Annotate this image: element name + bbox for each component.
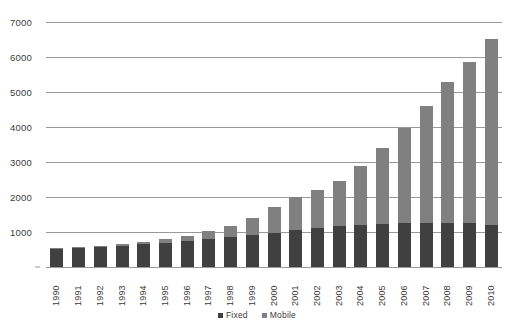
chart-legend: FixedMobile [0,310,514,320]
x-tick-label: 1993 [118,270,127,306]
bar-segment-mobile[interactable] [289,197,302,231]
bar-stack-1993[interactable] [116,244,129,267]
bar-segment-fixed[interactable] [268,233,281,267]
x-tick-slot: 1996 [176,270,198,306]
bar-segment-fixed[interactable] [246,235,259,267]
x-tick-slot: 1990 [46,270,68,306]
bar-stack-2005[interactable] [376,148,389,267]
bar-segment-mobile[interactable] [463,62,476,224]
bar-slot [133,22,155,267]
bar-stack-1999[interactable] [246,218,259,267]
x-tick-label: 2008 [443,270,452,306]
bar-segment-fixed[interactable] [116,246,129,267]
bar-stack-1991[interactable] [72,247,85,267]
x-tick-label: 1990 [52,270,61,306]
x-tick-slot: 2008 [437,270,459,306]
y-axis: 1000200030004000500060007000 [0,22,42,267]
plot-area [46,22,502,267]
x-tick-label: 1991 [74,270,83,306]
bar-stack-1996[interactable] [181,236,194,267]
y-tick-label: 4000 [10,122,32,133]
bar-segment-mobile[interactable] [398,128,411,223]
legend-swatch-icon [262,313,267,318]
bar-segment-mobile[interactable] [485,39,498,225]
bar-segment-mobile[interactable] [224,226,237,237]
x-tick-slot: 2006 [394,270,416,306]
bar-stack-1990[interactable] [50,248,63,267]
bar-segment-mobile[interactable] [268,207,281,233]
bar-segment-fixed[interactable] [72,248,85,267]
bar-segment-fixed[interactable] [311,228,324,267]
bar-segment-fixed[interactable] [159,243,172,268]
bar-segment-fixed[interactable] [485,225,498,267]
bar-segment-fixed[interactable] [289,230,302,267]
legend-entry-fixed[interactable]: Fixed [218,310,248,320]
x-tick-slot: 2000 [263,270,285,306]
x-tick-label: 2000 [270,270,279,306]
bar-slot [459,22,481,267]
x-tick-label: 2010 [487,270,496,306]
bar-stack-1995[interactable] [159,239,172,267]
bar-segment-fixed[interactable] [398,223,411,267]
bar-stack-1994[interactable] [137,242,150,267]
bar-stack-2008[interactable] [441,82,454,267]
bar-segment-mobile[interactable] [420,106,433,223]
x-tick-label: 1997 [204,270,213,306]
bar-segment-fixed[interactable] [441,223,454,267]
x-tick-slot: 1999 [241,270,263,306]
bar-stack-1992[interactable] [94,246,107,267]
bar-stack-2002[interactable] [311,190,324,267]
bar-segment-fixed[interactable] [94,247,107,267]
bar-segment-fixed[interactable] [354,225,367,267]
bar-slot [220,22,242,267]
bar-stack-2006[interactable] [398,128,411,267]
y-tick-label: 7000 [10,17,32,28]
x-tick-slot: 2010 [480,270,502,306]
x-tick-label: 1996 [183,270,192,306]
bar-stack-2004[interactable] [354,166,367,268]
bar-slot [46,22,68,267]
stacked-bar-chart: 1000200030004000500060007000 19901991199… [0,0,514,335]
bar-slot [480,22,502,267]
y-tick-label: 5000 [10,87,32,98]
x-tick-label: 1994 [139,270,148,306]
x-tick-slot: 1997 [198,270,220,306]
bar-segment-fixed[interactable] [224,237,237,267]
x-tick-label: 1999 [248,270,257,306]
bar-segment-mobile[interactable] [441,82,454,223]
bar-slot [307,22,329,267]
bar-stack-2007[interactable] [420,106,433,267]
x-tick-slot: 1998 [220,270,242,306]
bar-stack-2010[interactable] [485,39,498,267]
bar-segment-mobile[interactable] [354,166,367,226]
bar-slot [350,22,372,267]
x-tick-label: 1992 [96,270,105,306]
bar-stack-1997[interactable] [202,231,215,267]
bar-segment-mobile[interactable] [246,218,259,235]
bar-stack-2001[interactable] [289,197,302,267]
bar-stack-1998[interactable] [224,226,237,267]
bar-segment-fixed[interactable] [420,223,433,267]
bar-stack-2009[interactable] [463,62,476,267]
bar-segment-fixed[interactable] [376,224,389,267]
bar-segment-mobile[interactable] [376,148,389,224]
bar-slot [415,22,437,267]
x-tick-label: 2007 [422,270,431,306]
bar-segment-mobile[interactable] [202,231,215,239]
bar-stack-2000[interactable] [268,207,281,267]
legend-entry-mobile[interactable]: Mobile [262,310,296,320]
bar-segment-fixed[interactable] [463,223,476,267]
bar-segment-mobile[interactable] [311,190,324,228]
x-tick-slot: 1994 [133,270,155,306]
x-tick-slot: 1992 [89,270,111,306]
bar-stack-2003[interactable] [333,181,346,267]
bar-segment-fixed[interactable] [50,249,63,267]
x-tick-slot: 2005 [372,270,394,306]
bar-segment-mobile[interactable] [333,181,346,227]
bar-slot [176,22,198,267]
bar-segment-fixed[interactable] [333,226,346,267]
bar-segment-fixed[interactable] [181,241,194,267]
bar-segment-fixed[interactable] [202,239,215,267]
x-tick-slot: 1991 [68,270,90,306]
bar-segment-fixed[interactable] [137,244,150,267]
